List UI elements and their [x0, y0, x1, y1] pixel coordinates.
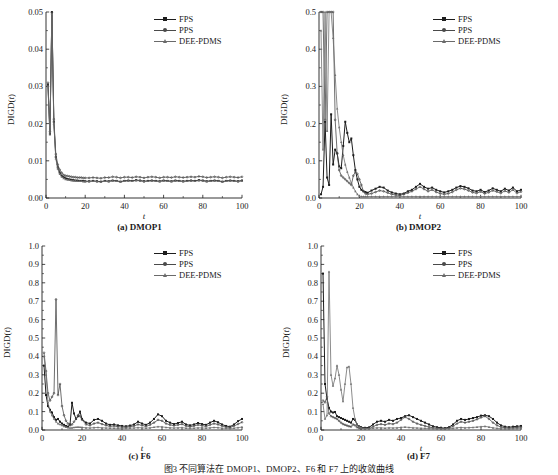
- legend-label: DEE-PDMS: [179, 270, 222, 281]
- legend: FPSPPSDEE-PDMS: [433, 248, 501, 281]
- subplot-caption-c: (c) F6: [0, 451, 279, 461]
- legend-item-dee-pdms[interactable]: DEE-PDMS: [433, 270, 501, 281]
- series-markers-fps: [43, 365, 243, 428]
- subplot-f6: 0.00.10.20.30.40.50.60.70.80.91.00204060…: [0, 236, 279, 473]
- plot-canvas: [279, 236, 558, 472]
- x-axis-label: t: [319, 211, 521, 221]
- square-marker: [433, 249, 455, 258]
- circle-marker: [154, 260, 176, 269]
- series-markers-fps: [322, 273, 522, 430]
- plot-canvas: [0, 0, 279, 236]
- legend-item-dee-pdms[interactable]: DEE-PDMS: [154, 270, 222, 281]
- y-axis-label: DIGD(t): [6, 94, 16, 125]
- legend-item-fps[interactable]: FPS: [433, 14, 501, 25]
- circle-marker: [154, 26, 176, 35]
- plot-area: 0.000.010.020.030.040.05020406080100DIGD…: [0, 0, 279, 236]
- subplot-dmop2: 0.00.10.20.30.40.5020406080100DIGD(t)tFP…: [279, 0, 558, 236]
- series-line-fps: [44, 366, 242, 427]
- legend-label: DEE-PDMS: [179, 36, 222, 47]
- series-markers-dee-pdms: [43, 355, 243, 429]
- triangle-marker: [154, 271, 176, 280]
- legend-label: PPS: [458, 25, 472, 36]
- series-line-dee-pdms: [44, 356, 242, 428]
- triangle-marker: [433, 271, 455, 280]
- legend: FPSPPSDEE-PDMS: [154, 14, 222, 47]
- legend-label: PPS: [179, 259, 193, 270]
- legend-label: FPS: [179, 14, 193, 25]
- legend-label: PPS: [179, 25, 193, 36]
- subplot-caption-d: (d) F7: [279, 451, 558, 461]
- legend-label: FPS: [458, 14, 472, 25]
- figure-caption: 图3 不同算法在 DMOP1、DMOP2、F6 和 F7 上的收敛曲线: [0, 462, 558, 475]
- subplot-caption-b: (b) DMOP2: [279, 222, 558, 232]
- y-axis-label: DIGD(t): [2, 327, 12, 358]
- legend-item-fps[interactable]: FPS: [433, 248, 501, 259]
- plot-canvas: [0, 236, 279, 472]
- plot-area: 0.00.10.20.30.40.5020406080100DIGD(t)tFP…: [279, 0, 558, 236]
- legend-label: DEE-PDMS: [458, 36, 501, 47]
- legend: FPSPPSDEE-PDMS: [433, 14, 501, 47]
- circle-marker: [433, 260, 455, 269]
- x-axis-label: t: [46, 211, 242, 221]
- circle-marker: [433, 26, 455, 35]
- y-axis-label: DIGD(t): [281, 327, 291, 358]
- plot-area: 0.00.10.20.30.40.50.60.70.80.91.00204060…: [0, 236, 279, 472]
- legend-item-pps[interactable]: PPS: [154, 259, 222, 270]
- subplot-caption-a: (a) DMOP1: [0, 222, 279, 232]
- legend-label: FPS: [458, 248, 472, 259]
- series-markers-dee-pdms: [322, 270, 522, 429]
- legend-item-pps[interactable]: PPS: [433, 25, 501, 36]
- legend-item-pps[interactable]: PPS: [433, 259, 501, 270]
- plot-area: 0.00.10.20.30.40.50.60.70.80.91.00204060…: [279, 236, 558, 472]
- subplot-f7: 0.00.10.20.30.40.50.60.70.80.91.00204060…: [279, 236, 558, 473]
- triangle-marker: [154, 37, 176, 46]
- legend-item-pps[interactable]: PPS: [154, 25, 222, 36]
- subplot-dmop1: 0.000.010.020.030.040.05020406080100DIGD…: [0, 0, 279, 236]
- square-marker: [154, 15, 176, 24]
- legend-item-fps[interactable]: FPS: [154, 14, 222, 25]
- legend-label: FPS: [179, 248, 193, 259]
- legend-label: DEE-PDMS: [458, 270, 501, 281]
- legend-item-fps[interactable]: FPS: [154, 248, 222, 259]
- legend-item-dee-pdms[interactable]: DEE-PDMS: [433, 36, 501, 47]
- legend-label: PPS: [458, 259, 472, 270]
- square-marker: [154, 249, 176, 258]
- series-line-dee-pdms: [323, 272, 521, 429]
- triangle-marker: [433, 37, 455, 46]
- plot-canvas: [279, 0, 558, 236]
- square-marker: [433, 15, 455, 24]
- legend: FPSPPSDEE-PDMS: [154, 248, 222, 281]
- series-line-pps: [44, 299, 242, 427]
- legend-item-dee-pdms[interactable]: DEE-PDMS: [154, 36, 222, 47]
- y-axis-label: DIGD(t): [279, 94, 289, 125]
